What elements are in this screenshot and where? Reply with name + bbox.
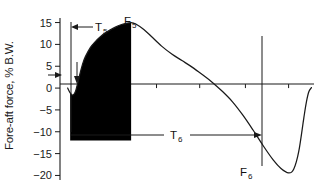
shaded-impulse-area xyxy=(70,23,131,141)
y-axis-ticks: 151050−5−10−15−20 xyxy=(33,17,60,182)
f6-annotation: F 6 xyxy=(240,166,253,181)
t5-label-subscript: 5 xyxy=(103,27,108,36)
f6-label-subscript: 6 xyxy=(248,172,253,181)
f5-label: F xyxy=(124,15,131,27)
y-tick-label: 0 xyxy=(46,82,52,94)
t5-arrow-head-icon xyxy=(71,24,78,30)
onset-arrow-head-icon xyxy=(55,72,62,78)
t5-label: T xyxy=(95,21,102,33)
y-tick-label: −5 xyxy=(39,104,52,116)
y-tick-label: 15 xyxy=(40,17,52,29)
f5-label-subscript: 5 xyxy=(132,21,137,30)
x-axis-ticks xyxy=(157,84,289,88)
f6-label: F xyxy=(240,166,247,178)
t6-label-subscript: 6 xyxy=(178,135,183,144)
t6-label: T xyxy=(170,129,177,141)
fore-aft-force-chart: Fore-aft force, % B.W. 151050−5−10−15−20… xyxy=(0,0,319,192)
y-tick-label: −10 xyxy=(33,126,52,138)
y-tick-label: 5 xyxy=(46,60,52,72)
y-tick-label: −15 xyxy=(33,148,52,160)
y-axis-label: Fore-aft force, % B.W. xyxy=(3,41,15,150)
y-tick-label: 10 xyxy=(40,38,52,50)
chart-figure: Fore-aft force, % B.W. 151050−5−10−15−20… xyxy=(0,0,319,192)
y-tick-label: −20 xyxy=(33,169,52,181)
